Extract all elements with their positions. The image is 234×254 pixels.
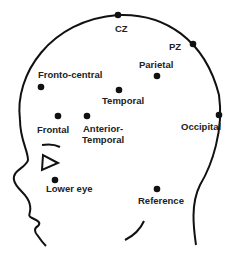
label-reference: Reference	[138, 195, 184, 206]
electrode-dot-temporal	[116, 87, 123, 94]
face-profile	[14, 120, 46, 246]
electrode-dot-fronto-central	[38, 84, 45, 91]
label-lower-eye: Lower eye	[46, 183, 92, 194]
electrode-dot-frontal	[55, 113, 62, 120]
label-pz: PZ	[169, 41, 181, 52]
eye-shape	[42, 155, 58, 170]
electrode-dot-cz	[115, 12, 122, 19]
label-frontal: Frontal	[37, 124, 69, 135]
jaw-line	[125, 221, 144, 240]
label-fronto-central: Fronto-central	[38, 69, 102, 80]
label-anterior-temporal-line1: Anterior-	[83, 123, 123, 134]
electrode-dot-occipital	[216, 112, 223, 119]
electrode-dot-parietal	[154, 73, 161, 80]
eyebrow	[42, 145, 60, 147]
label-anterior-temporal-line2: Temporal	[82, 134, 124, 145]
electrode-dot-reference	[154, 186, 161, 193]
electrode-dot-anterior-temporal	[84, 113, 91, 120]
electrode-dot-pz	[190, 41, 197, 48]
label-occipital: Occipital	[181, 121, 221, 132]
label-parietal: Parietal	[139, 59, 173, 70]
label-temporal: Temporal	[102, 95, 144, 106]
label-cz: CZ	[115, 23, 128, 34]
